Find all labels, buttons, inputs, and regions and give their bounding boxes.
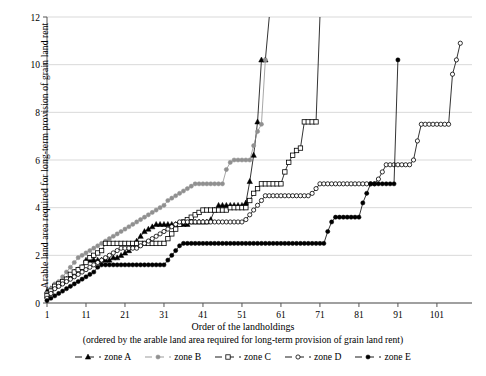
marker-circle-filled xyxy=(45,299,49,303)
marker-circle-filled xyxy=(209,241,213,245)
marker-square-open xyxy=(255,186,259,190)
marker-circle-filled xyxy=(135,263,139,267)
legend-label: zone E xyxy=(384,352,410,362)
marker-circle-filled xyxy=(330,220,334,224)
marker-circle-filled xyxy=(138,217,142,221)
marker-circle-filled xyxy=(107,263,111,267)
series-zone-e xyxy=(45,58,400,303)
marker-circle-open xyxy=(146,239,150,243)
x-tick-label-101: 101 xyxy=(430,310,445,320)
marker-circle-filled xyxy=(123,227,127,231)
marker-circle-filled xyxy=(365,191,369,195)
marker-circle-filled xyxy=(154,263,158,267)
marker-circle-filled xyxy=(322,241,326,245)
marker-circle-filled xyxy=(306,241,310,245)
marker-circle-filled xyxy=(248,158,252,162)
marker-circle-open xyxy=(252,208,256,212)
marker-circle-filled xyxy=(388,182,392,186)
marker-circle-open xyxy=(259,198,263,202)
chart-legend: zone Azone Bzone Czone Dzone E xyxy=(0,352,486,362)
marker-circle-open xyxy=(306,194,310,198)
marker-circle-open xyxy=(376,177,380,181)
marker-circle-filled xyxy=(177,244,181,248)
marker-square-open xyxy=(99,248,103,252)
marker-square-open xyxy=(298,146,302,150)
legend-item-zone-e[interactable]: zone E xyxy=(355,352,410,362)
marker-square-open xyxy=(173,227,177,231)
marker-circle-filled xyxy=(228,241,232,245)
marker-square-open xyxy=(248,198,252,202)
marker-circle-open xyxy=(68,277,72,281)
marker-circle-filled xyxy=(138,263,142,267)
marker-circle-open xyxy=(103,256,107,260)
marker-circle-filled xyxy=(158,263,162,267)
marker-circle-filled xyxy=(310,241,314,245)
marker-circle-filled xyxy=(302,241,306,245)
marker-circle-open xyxy=(53,287,57,291)
marker-circle-filled xyxy=(205,182,209,186)
marker-circle-open xyxy=(154,234,158,238)
x-tick-label-31: 31 xyxy=(159,310,169,320)
marker-circle-filled xyxy=(380,182,384,186)
marker-circle-filled xyxy=(209,182,213,186)
marker-circle-filled xyxy=(99,263,103,267)
marker-circle-open xyxy=(99,258,103,262)
marker-circle-filled xyxy=(197,182,201,186)
legend-item-zone-c[interactable]: zone C xyxy=(215,352,271,362)
marker-circle-filled xyxy=(232,241,236,245)
marker-circle-filled xyxy=(135,220,139,224)
marker-circle-filled xyxy=(162,203,166,207)
marker-circle-open xyxy=(142,241,146,245)
marker-circle-filled xyxy=(115,232,119,236)
marker-square-open xyxy=(283,170,287,174)
x-tick-label-11: 11 xyxy=(81,310,90,320)
marker-circle-open xyxy=(84,268,88,272)
marker-circle-filled xyxy=(127,263,131,267)
marker-circle-filled xyxy=(240,241,244,245)
marker-circle-filled xyxy=(224,167,228,171)
marker-circle-filled xyxy=(119,263,123,267)
marker-circle-open xyxy=(115,248,119,252)
marker-circle-open xyxy=(454,58,458,62)
marker-circle-open xyxy=(158,232,162,236)
marker-circle-open xyxy=(408,163,412,167)
marker-circle-filled xyxy=(228,160,232,164)
marker-circle-filled xyxy=(220,182,224,186)
marker-circle-filled xyxy=(166,198,170,202)
marker-circle-open xyxy=(80,270,84,274)
marker-circle-open xyxy=(166,227,170,231)
marker-circle-filled xyxy=(111,263,115,267)
marker-circle-open xyxy=(310,191,314,195)
marker-circle-filled xyxy=(259,122,263,126)
marker-circle-filled xyxy=(294,241,298,245)
marker-circle-filled xyxy=(326,229,330,233)
marker-circle-open xyxy=(174,222,178,226)
series-zone-a xyxy=(44,17,269,293)
marker-circle-filled xyxy=(252,241,256,245)
marker-circle-filled xyxy=(333,215,337,219)
marker-circle-filled xyxy=(267,241,271,245)
marker-square-open xyxy=(166,236,170,240)
marker-circle-filled xyxy=(220,241,224,245)
legend-item-zone-b[interactable]: zone B xyxy=(145,352,201,362)
marker-circle-open xyxy=(92,263,96,267)
marker-circle-filled xyxy=(80,277,84,281)
legend-item-zone-d[interactable]: zone D xyxy=(285,352,341,362)
marker-circle-filled xyxy=(96,244,100,248)
marker-circle-filled xyxy=(213,241,217,245)
marker-circle-open xyxy=(138,244,142,248)
marker-circle-filled xyxy=(119,229,123,233)
marker-circle-filled xyxy=(57,291,61,295)
marker-circle-filled xyxy=(189,184,193,188)
marker-square-open xyxy=(251,191,255,195)
marker-circle-filled xyxy=(111,234,115,238)
x-tick-label-61: 61 xyxy=(276,310,286,320)
marker-circle-filled xyxy=(80,253,84,257)
marker-circle-open xyxy=(248,213,252,217)
marker-circle-open xyxy=(450,72,454,76)
marker-circle-filled xyxy=(156,355,160,359)
legend-item-zone-a[interactable]: zone A xyxy=(75,352,131,362)
x-tick-label-21: 21 xyxy=(120,310,130,320)
marker-triangle xyxy=(247,179,252,184)
marker-circle-filled xyxy=(53,294,57,298)
